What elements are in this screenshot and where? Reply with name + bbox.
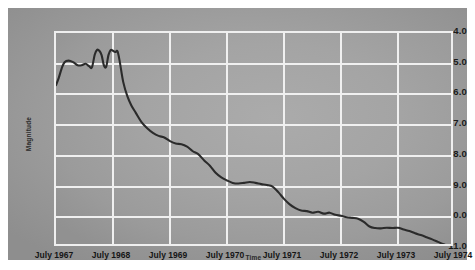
chart-figure: 4.05.06.07.08.09.010.011.0 Magnitude Jul… <box>0 0 475 270</box>
y-axis-title-wrapper: Magnitude <box>22 8 34 260</box>
light-curve-series <box>56 33 453 246</box>
chart-panel: 4.05.06.07.08.09.010.011.0 Magnitude Jul… <box>8 8 467 260</box>
x-axis-title: Time <box>54 254 453 261</box>
plot-area <box>54 31 453 246</box>
y-axis-title: Magnitude <box>25 117 32 151</box>
light-curve-path <box>56 50 453 246</box>
